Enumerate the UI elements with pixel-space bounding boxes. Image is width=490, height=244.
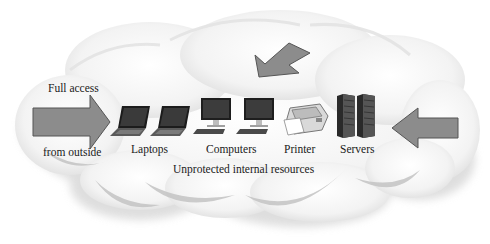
from-outside-label: from outside [43, 146, 101, 158]
printer-icon [282, 102, 330, 138]
servers-label: Servers [340, 143, 375, 155]
desktop-computer-icon [236, 96, 278, 136]
full-access-label: Full access [48, 82, 99, 94]
network-diagram: Full access from outside Laptops Compute… [0, 0, 490, 244]
server-icon [335, 92, 379, 138]
computers-label: Computers [206, 143, 256, 155]
desktop-computer-icon [193, 96, 235, 136]
laptops-label: Laptops [131, 143, 168, 155]
printer-label: Printer [284, 143, 315, 155]
caption-label: Unprotected internal resources [173, 163, 314, 175]
laptop-icon [150, 104, 196, 138]
